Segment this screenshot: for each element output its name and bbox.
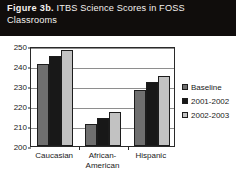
bar-group <box>79 48 127 146</box>
y-axis-tick-label: 250 <box>14 44 27 52</box>
y-axis-tick-mark <box>28 148 31 149</box>
y-axis-tick-label: 240 <box>14 64 27 72</box>
bar[interactable] <box>61 50 73 146</box>
bar[interactable] <box>134 90 146 146</box>
y-axis-tick-label: 230 <box>14 84 27 92</box>
legend-label: Baseline <box>191 83 222 92</box>
x-axis-tick-mark <box>128 146 129 150</box>
x-axis-label-line: Hispanic <box>127 151 175 161</box>
bar[interactable] <box>109 112 121 146</box>
x-axis-label: African-American <box>78 151 126 170</box>
figure-title-bar: Figure 3b. ITBS Science Scores in FOSS C… <box>0 0 236 36</box>
y-axis-tick-label: 220 <box>14 104 27 112</box>
bar[interactable] <box>49 56 61 146</box>
bar-group <box>128 48 176 146</box>
bar[interactable] <box>97 118 109 146</box>
bar[interactable] <box>146 82 158 146</box>
legend-swatch-icon <box>182 84 188 90</box>
figure-number-label: Figure 3b. <box>7 3 54 13</box>
bar[interactable] <box>37 64 49 146</box>
bar[interactable] <box>85 124 97 146</box>
legend-label: 2002-2003 <box>191 111 229 120</box>
plot-area: 200210220230240250 <box>30 47 175 147</box>
y-axis-tick-label: 200 <box>14 144 27 152</box>
x-axis-label: Hispanic <box>127 151 175 161</box>
bar-group <box>31 48 79 146</box>
legend-item[interactable]: Baseline <box>182 81 236 93</box>
bar[interactable] <box>158 76 170 146</box>
legend-label: 2001-2002 <box>191 97 229 106</box>
x-axis-label-line: African- <box>78 151 126 161</box>
x-axis-tick-mark <box>79 146 80 150</box>
chart-area: 200210220230240250 CaucasianAfrican-Amer… <box>0 36 236 175</box>
x-axis-label-line: American <box>78 161 126 171</box>
legend-swatch-icon <box>182 98 188 104</box>
y-axis-tick-label: 210 <box>14 124 27 132</box>
legend-item[interactable]: 2001-2002 <box>182 95 236 107</box>
figure-title-text: Figure 3b. ITBS Science Scores in FOSS C… <box>7 3 228 26</box>
x-axis-label: Caucasian <box>30 151 78 161</box>
x-axis-label-line: Caucasian <box>30 151 78 161</box>
chart-legend: Baseline2001-20022002-2003 <box>182 81 236 123</box>
legend-item[interactable]: 2002-2003 <box>182 109 236 121</box>
legend-swatch-icon <box>182 112 188 118</box>
